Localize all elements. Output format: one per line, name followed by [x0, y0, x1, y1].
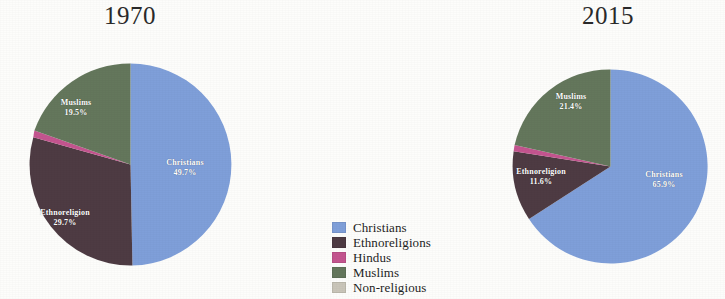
legend-label-non-religious: Non-religious	[353, 280, 427, 296]
legend-item-ethnoreligions: Ethnoreligions	[332, 235, 431, 250]
legend-swatch-hindus	[332, 252, 346, 263]
legend-swatch-ethnoreligions	[332, 237, 346, 248]
legend-item-non-religious: Non-religious	[332, 280, 431, 295]
slice-label-christians-1970: Christians 49.7%	[166, 158, 204, 178]
slice-label-christians-1970-name: Christians	[166, 158, 204, 167]
slice-label-muslims-2015-pct: 21.4%	[556, 102, 587, 112]
slice-label-christians-2015-pct: 65.9%	[645, 180, 683, 190]
slice-label-ethnoreligion-2015-name: Ethnoreligion	[516, 167, 566, 176]
chart-legend: Christians Ethnoreligions Hindus Muslims…	[332, 220, 431, 295]
slice-label-christians-2015: Christians 65.9%	[645, 170, 683, 190]
slice-label-ethnoreligion-1970-name: Ethnoreligion	[40, 208, 90, 217]
legend-label-ethnoreligions: Ethnoreligions	[353, 235, 431, 251]
legend-label-christians: Christians	[353, 220, 407, 236]
pie-chart-figure: 1970 Christians 49.7% Muslims 19.5% Ethn…	[0, 0, 725, 299]
slice-label-ethnoreligion-2015: Ethnoreligion 11.6%	[516, 167, 566, 187]
legend-label-hindus: Hindus	[353, 250, 391, 266]
slice-label-muslims-2015: Muslims 21.4%	[556, 92, 587, 112]
slice-label-muslims-2015-name: Muslims	[556, 92, 587, 101]
legend-swatch-muslims	[332, 267, 346, 278]
slice-label-muslims-1970-name: Muslims	[61, 98, 92, 107]
slice-label-muslims-1970: Muslims 19.5%	[61, 98, 92, 118]
slice-label-christians-2015-name: Christians	[645, 170, 683, 179]
legend-swatch-non-religious	[332, 282, 346, 293]
slice-label-muslims-1970-pct: 19.5%	[61, 108, 92, 118]
legend-label-muslims: Muslims	[353, 265, 399, 281]
slice-label-ethnoreligion-1970: Ethnoreligion 29.7%	[40, 208, 90, 228]
slice-label-ethnoreligion-1970-pct: 29.7%	[40, 218, 90, 228]
legend-swatch-christians	[332, 222, 346, 233]
chart-title-2015: 2015	[558, 2, 658, 30]
slice-label-ethnoreligion-2015-pct: 11.6%	[516, 177, 566, 187]
legend-item-hindus: Hindus	[332, 250, 431, 265]
legend-item-christians: Christians	[332, 220, 431, 235]
legend-item-muslims: Muslims	[332, 265, 431, 280]
chart-title-1970: 1970	[80, 2, 180, 30]
slice-label-christians-1970-pct: 49.7%	[166, 168, 204, 178]
